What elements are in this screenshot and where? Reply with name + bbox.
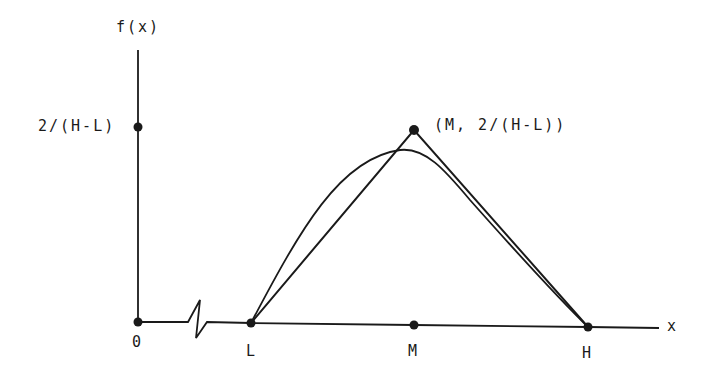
point-M	[410, 321, 419, 330]
smooth-approx-curve	[251, 150, 588, 327]
triangular-pdf-line	[251, 130, 588, 327]
y-axis-label: f(x)	[116, 18, 160, 36]
diagram-canvas	[0, 0, 708, 384]
x-label-H: H	[582, 344, 593, 362]
x-label-L: L	[246, 342, 257, 360]
peak-point	[409, 125, 419, 135]
x-label-M: M	[408, 342, 419, 360]
origin-point	[134, 318, 143, 327]
y-tick-point	[134, 123, 143, 132]
point-H	[584, 323, 593, 332]
y-tick-label: 2/(H-L)	[38, 117, 115, 135]
origin-label: 0	[132, 333, 143, 351]
point-L	[247, 319, 256, 328]
x-axis-label: x	[667, 317, 678, 335]
peak-label: (M, 2/(H-L))	[434, 116, 566, 134]
